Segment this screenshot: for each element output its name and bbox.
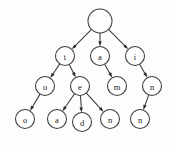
trie-node[interactable]: i — [126, 47, 145, 66]
trie-node[interactable]: a — [91, 47, 110, 66]
trie-edge-line — [69, 65, 73, 73]
trie-node-circle[interactable] — [108, 77, 127, 96]
trie-node[interactable]: n — [131, 110, 150, 129]
trie-edge-line — [33, 94, 40, 106]
trie-node-circle[interactable] — [88, 9, 112, 33]
trie-edge-arrowhead — [72, 72, 76, 77]
trie-edge-arrowhead — [30, 106, 34, 111]
trie-edge-arrowhead — [143, 105, 146, 110]
trie-node[interactable]: n — [101, 110, 120, 129]
trie-edge-line — [140, 64, 145, 73]
trie-node-circle[interactable] — [36, 77, 55, 96]
trie-edge-line — [65, 94, 74, 107]
trie-node-circle[interactable] — [71, 77, 90, 96]
trie-node-circle[interactable] — [16, 110, 35, 129]
trie-edge-arrowhead — [143, 72, 147, 77]
trie-node[interactable]: m — [108, 77, 127, 96]
trie-node[interactable]: a — [48, 110, 67, 129]
trie-edge-line — [53, 64, 60, 74]
trie-node-circle[interactable] — [48, 110, 67, 129]
trie-node-circle[interactable] — [131, 110, 150, 129]
trie-edge-arrowhead — [50, 73, 54, 78]
trie-edge-line — [145, 95, 149, 105]
trie-edge-line — [108, 29, 124, 45]
trie-canvas: taioemnoadnn — [0, 0, 176, 151]
trie-node-circle[interactable] — [126, 47, 145, 66]
trie-node-circle[interactable] — [101, 110, 120, 129]
trie-node[interactable] — [88, 9, 112, 33]
trie-node-circle[interactable] — [91, 47, 110, 66]
trie-edge-arrowhead — [108, 72, 112, 77]
edges-layer — [30, 29, 149, 112]
trie-node[interactable]: o — [16, 110, 35, 129]
trie-node[interactable]: o — [36, 77, 55, 96]
trie-node[interactable]: n — [143, 77, 162, 96]
trie-node[interactable]: d — [73, 113, 92, 132]
trie-node[interactable]: t — [56, 47, 75, 66]
trie-edge-line — [105, 64, 110, 73]
trie-node-circle[interactable] — [143, 77, 162, 96]
trie-edge-line — [75, 29, 91, 45]
trie-node-circle[interactable] — [73, 113, 92, 132]
nodes-layer: taioemnoadnn — [16, 9, 162, 132]
trie-edge-line — [81, 95, 82, 107]
trie-node[interactable]: e — [71, 77, 90, 96]
trie-node-circle[interactable] — [56, 47, 75, 66]
trie-edge-line — [86, 93, 100, 108]
trie-edge-arrowhead — [79, 107, 82, 112]
trie-edge-arrowhead — [98, 41, 101, 46]
trie-diagram-figure: taioemnoadnn — [0, 0, 176, 151]
